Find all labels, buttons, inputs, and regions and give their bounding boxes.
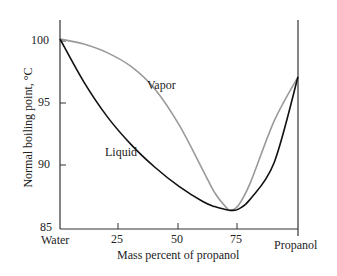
boiling-point-chart: 100 95 90 85 Water 25 50 75 Propanol Mas…	[0, 0, 337, 276]
x-tick-75: 75	[230, 232, 242, 247]
y-axis-label: Normal boiling point, °C	[21, 63, 36, 193]
y-tick-100: 100	[31, 33, 49, 48]
x-tick-50: 50	[171, 232, 183, 247]
x-ticks	[118, 223, 237, 229]
y-tick-95: 95	[38, 95, 50, 110]
y-tick-90: 90	[38, 157, 50, 172]
x-tick-water: Water	[41, 233, 69, 248]
y-ticks	[60, 41, 66, 165]
x-tick-25: 25	[111, 232, 123, 247]
x-axis-label: Mass percent of propanol	[117, 248, 239, 263]
x-tick-propanol: Propanol	[274, 238, 317, 253]
liquid-label: Liquid	[105, 145, 137, 160]
vapor-label: Vapor	[147, 78, 176, 93]
